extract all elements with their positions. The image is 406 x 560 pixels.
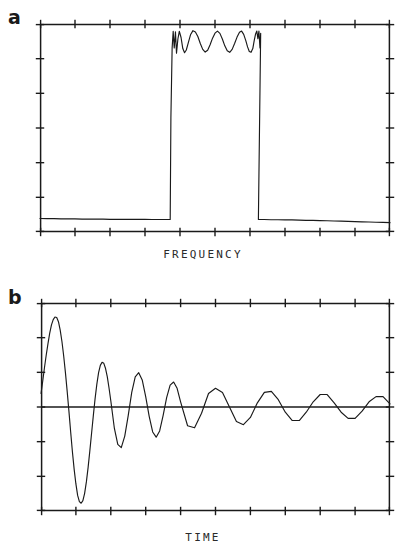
panel-a-plot-area: [40, 24, 390, 232]
panel-b-label: b: [8, 288, 22, 307]
panel-a-tick-marks: [36, 20, 394, 236]
panel-a-label: a: [8, 8, 21, 27]
panel-b-x-axis-caption: TIME: [0, 531, 406, 544]
panel-b-plot-area: [41, 303, 390, 511]
panel-a-x-axis-caption: FREQUENCY: [0, 248, 406, 261]
panel-a-axis-frame: [41, 25, 390, 232]
panel-a-plot-svg: [40, 24, 390, 232]
panel-a: a FREQUENCY: [0, 0, 406, 280]
panel-b-impulse-curve: [41, 317, 390, 503]
panel-b-plot-svg: [41, 303, 390, 511]
panel-a-response-curve: [40, 31, 390, 223]
panel-b: b TIME: [0, 280, 406, 560]
figure-container: a FREQUENCY b TIME: [0, 0, 406, 560]
